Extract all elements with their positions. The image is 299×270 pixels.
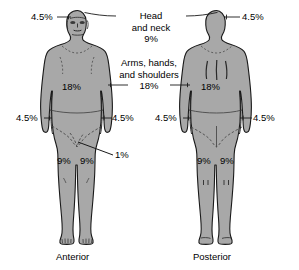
anterior-groin-percent: 1% [115, 149, 129, 160]
leader-head-left [85, 13, 117, 17]
head-and-neck-percent: 9% [116, 33, 186, 45]
anterior-arm-left-percent: 4.5% [16, 112, 38, 123]
posterior-leg-right-percent: 9% [220, 155, 234, 166]
posterior-arm-left-percent: 4.5% [155, 112, 177, 123]
posterior-head-percent: 4.5% [242, 11, 264, 22]
posterior-leg-left-percent: 9% [197, 155, 211, 166]
arms-callout-line2: and shoulders [109, 69, 189, 81]
leader-post-head-pct [224, 15, 240, 20]
anterior-head-percent: 4.5% [31, 11, 53, 22]
head-and-neck-line1: Head [116, 10, 186, 22]
anterior-figure [41, 11, 113, 245]
anterior-leg-right-percent: 9% [80, 155, 94, 166]
posterior-caption: Posterior [193, 251, 231, 262]
rule-of-nines-diagram: Head and neck 9% Arms, hands, and should… [0, 0, 299, 270]
head-and-neck-line2: and neck [116, 22, 186, 34]
posterior-figure [180, 11, 252, 245]
head-and-neck-callout: Head and neck 9% [116, 10, 186, 45]
anterior-torso-percent: 18% [62, 81, 81, 92]
anterior-caption: Anterior [56, 251, 89, 262]
posterior-torso-percent: 18% [201, 81, 220, 92]
anterior-leg-left-percent: 9% [57, 155, 71, 166]
arms-callout-percent: 18% [109, 80, 189, 92]
arms-callout-line1: Arms, hands, [109, 57, 189, 69]
anterior-arm-right-percent: 4.5% [112, 112, 134, 123]
arms-callout: Arms, hands, and shoulders 18% [109, 57, 189, 92]
leader-ant-head-pct [57, 15, 71, 20]
posterior-arm-right-percent: 4.5% [253, 112, 275, 123]
